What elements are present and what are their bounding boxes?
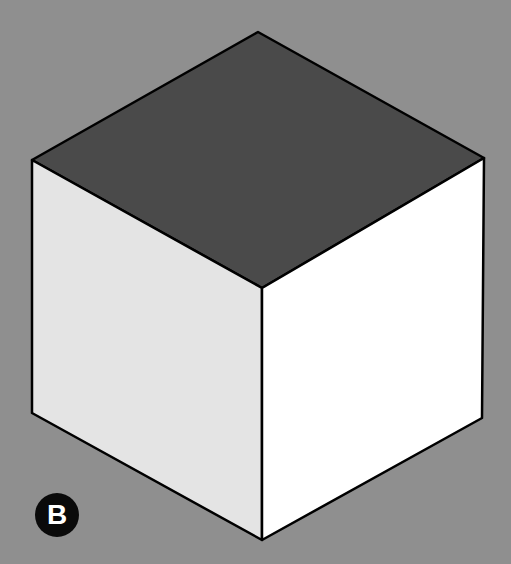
isometric-cube <box>0 0 511 564</box>
figure-label-badge: B <box>35 493 79 537</box>
figure-label-text: B <box>47 501 67 529</box>
figure: B <box>0 0 511 564</box>
